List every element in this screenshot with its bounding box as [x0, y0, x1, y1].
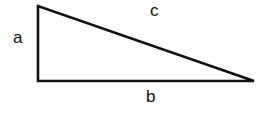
side-a-label: a [13, 29, 22, 46]
right-triangle-shape [0, 0, 265, 116]
triangle-diagram: a c b [0, 0, 265, 116]
side-b-label: b [146, 88, 155, 105]
side-c-label: c [150, 2, 159, 19]
